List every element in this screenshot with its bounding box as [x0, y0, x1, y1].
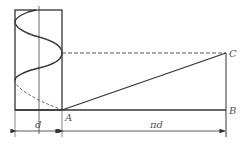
label-C: C — [229, 48, 237, 59]
label-d: d — [35, 119, 41, 130]
label-A: A — [64, 112, 72, 123]
label-pi-d: πd — [149, 119, 163, 130]
cylinder-outline — [15, 10, 62, 110]
helix-hidden-2 — [15, 80, 62, 110]
label-B: B — [228, 105, 236, 116]
helix-development-diagram: d A B C πd — [0, 0, 244, 152]
hypotenuse-AC — [62, 53, 226, 110]
